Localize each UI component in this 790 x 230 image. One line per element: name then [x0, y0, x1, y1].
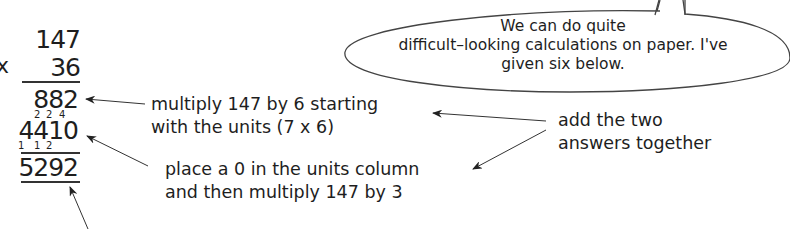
arrow-step2	[87, 136, 148, 166]
rule-3	[21, 181, 80, 183]
arrow-result	[70, 187, 88, 229]
arrow-step1	[86, 99, 145, 104]
speech-bubble: We can do quite difficult–looking calcul…	[353, 17, 773, 74]
bubble-line: difficult–looking calculations on paper.…	[353, 36, 773, 55]
carry-digit: 1	[34, 141, 40, 151]
annotation-step2: place a 0 in the units column and then m…	[165, 158, 419, 204]
carry-digit: 2	[46, 141, 52, 151]
bubble-line: We can do quite	[353, 17, 773, 36]
carry-digit: 1	[18, 141, 24, 151]
annotation-line: place a 0 in the units column	[165, 158, 419, 181]
multiplicand: 147	[0, 27, 80, 52]
annotation-line: and then multiply 147 by 3	[165, 181, 419, 204]
arrow-step3-b	[473, 130, 546, 169]
bubble-line: given six below.	[353, 55, 773, 74]
annotation-line: answers together	[558, 132, 711, 155]
annotation-line: multiply 147 by 6 starting	[151, 93, 378, 116]
annotation-line: with the units (7 x 6)	[151, 116, 378, 139]
rule-1	[22, 81, 80, 83]
multiplier: 36	[0, 55, 80, 80]
annotation-step1: multiply 147 by 6 starting with the unit…	[151, 93, 378, 139]
arrow-step3-a	[433, 113, 546, 121]
annotation-line: add the two	[558, 109, 711, 132]
annotation-step3: add the two answers together	[558, 109, 711, 155]
result: 5292	[0, 155, 78, 180]
